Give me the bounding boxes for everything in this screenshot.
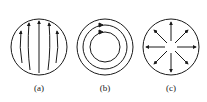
panel-b-label: (b) [90, 83, 120, 93]
field-line-arrow-icon [56, 31, 58, 63]
radial-arrow-icon [175, 51, 188, 64]
field-line-arrow-icon [48, 23, 50, 70]
panel-b-diagram [77, 19, 133, 75]
radial-arrow-icon [154, 51, 167, 64]
circulation-arrow-icon [99, 30, 103, 34]
panel-b-inner-circle [90, 32, 120, 62]
field-line-arrow-icon [20, 31, 22, 63]
panel-c-label: (c) [156, 83, 186, 93]
panel-b-outer-circle [77, 19, 133, 75]
radial-arrow-icon [154, 30, 167, 43]
panel-a-label: (a) [24, 83, 54, 93]
field-line-arrow-icon [28, 23, 30, 70]
panel-a-diagram [11, 19, 67, 75]
panel-c-diagram [143, 19, 199, 75]
circulation-arrow-icon [99, 23, 103, 27]
radial-arrow-icon [175, 30, 188, 43]
